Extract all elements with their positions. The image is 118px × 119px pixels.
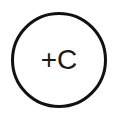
node-label: +C [41, 46, 78, 74]
circle-node: +C [11, 12, 107, 108]
